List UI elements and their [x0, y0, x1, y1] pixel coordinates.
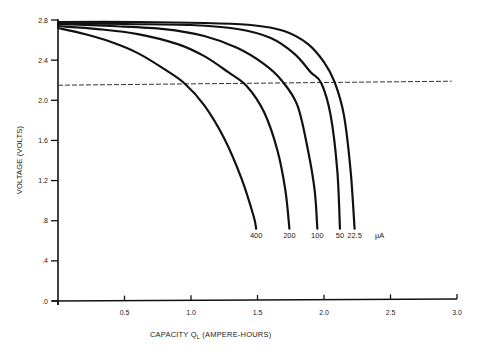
y-tick-label: 2.4	[38, 57, 48, 64]
y-axis: .0.4.81.21.62.02.42.8	[38, 17, 58, 306]
x-tick-label: 1.0	[186, 309, 196, 316]
x-axis-title-rest: (AMPERE-HOURS)	[200, 330, 272, 339]
y-tick-label: .0	[42, 298, 48, 305]
curve-label-22-5: 22.5	[347, 231, 362, 240]
x-axis-title-main: CAPACITY Q	[150, 330, 197, 339]
series-curves	[58, 22, 355, 229]
x-axis: 0.51.01.52.02.53.0	[52, 294, 462, 316]
x-tick-label: 1.5	[253, 309, 263, 316]
x-tick-label: 2.5	[386, 309, 396, 316]
x-tick-label: 3.0	[452, 309, 462, 316]
x-tick-label: 2.0	[319, 309, 329, 316]
series-curve-400	[58, 28, 256, 229]
y-axis-title: VOLTAGE (VOLTS)	[15, 125, 24, 194]
curve-label-200: 200	[283, 231, 296, 240]
units-label: µA	[375, 231, 384, 240]
curve-label-100: 100	[311, 231, 324, 240]
curve-label-400: 400	[250, 231, 263, 240]
reference-dashed-line	[58, 81, 452, 85]
series-curve-100	[58, 24, 317, 229]
y-tick-label: 1.6	[38, 137, 48, 144]
y-tick-label: 2.0	[38, 97, 48, 104]
x-axis-title: CAPACITY QL (AMPERE-HOURS)	[150, 330, 272, 340]
y-tick-label: .4	[42, 257, 48, 264]
series-curve-22-5	[58, 22, 355, 229]
y-tick-label: 2.8	[38, 17, 48, 24]
x-tick-label: 0.5	[120, 309, 130, 316]
curve-label-50: 50	[336, 231, 344, 240]
curve-labels: 4002001005022.5	[250, 231, 362, 240]
y-tick-label: 1.2	[38, 177, 48, 184]
discharge-curve-chart: .0.4.81.21.62.02.42.8 0.51.01.52.02.53.0…	[0, 0, 478, 351]
y-tick-label: .8	[42, 217, 48, 224]
